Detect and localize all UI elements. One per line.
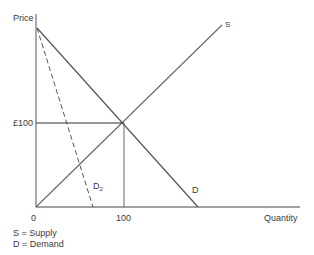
demand2-label: D2 (93, 182, 103, 192)
legend-demand: D = Demand (13, 240, 64, 249)
x-axis-label: Quantity (264, 214, 298, 223)
demand-curve (37, 28, 198, 207)
demand2-label-sub: 2 (100, 186, 103, 192)
price-tick-label: £100 (13, 119, 33, 128)
y-axis-label: Price (13, 14, 34, 23)
supply-label: S (225, 21, 230, 29)
legend-supply: S = Supply (13, 229, 57, 238)
origin-label: 0 (31, 214, 36, 223)
supply-curve (36, 25, 222, 207)
quantity-tick-label: 100 (116, 214, 131, 223)
demand2-curve (37, 28, 93, 207)
demand-label: D (192, 186, 199, 195)
